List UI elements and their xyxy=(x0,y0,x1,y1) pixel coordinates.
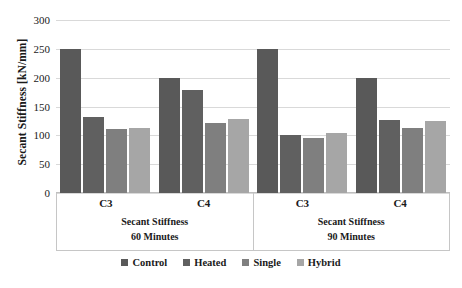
legend-swatch-icon xyxy=(183,259,190,266)
bar-heated xyxy=(182,90,203,193)
bar-group xyxy=(56,20,155,193)
y-axis-tick-label: 150 xyxy=(10,100,50,114)
bar-single xyxy=(402,128,423,193)
category-panel: C3C4Secant Stiffness90 Minutes xyxy=(253,193,450,250)
chart-legend: ControlHeatedSingleHybrid xyxy=(0,257,462,268)
y-axis-tick-label: 100 xyxy=(10,128,50,142)
bar-control xyxy=(159,78,180,193)
legend-item-control[interactable]: Control xyxy=(121,257,167,268)
bar-hybrid xyxy=(326,133,347,193)
category-label: C3 xyxy=(254,197,352,209)
bar-groups xyxy=(56,20,450,193)
legend-label: Control xyxy=(132,257,167,268)
bar-hybrid xyxy=(228,119,249,193)
bar-heated xyxy=(280,135,301,193)
bar-heated xyxy=(379,120,400,193)
legend-label: Hybrid xyxy=(308,257,341,268)
panel-title-line1: Secant Stiffness xyxy=(57,213,253,228)
bar-single xyxy=(303,138,324,193)
y-axis-tick-label: 50 xyxy=(10,157,50,171)
legend-label: Heated xyxy=(194,257,226,268)
bar-control xyxy=(356,78,377,193)
plot-area xyxy=(56,20,450,193)
category-label: C3 xyxy=(57,197,155,209)
bar-group xyxy=(352,20,451,193)
y-axis-tick-label: 200 xyxy=(10,71,50,85)
bar-control xyxy=(257,49,278,193)
category-label: C4 xyxy=(155,197,253,209)
legend-item-heated[interactable]: Heated xyxy=(183,257,226,268)
y-axis-tick-label: 0 xyxy=(10,186,50,200)
category-panel: C3C4Secant Stiffness60 Minutes xyxy=(57,193,253,250)
bar-single xyxy=(106,129,127,193)
legend-label: Single xyxy=(253,257,280,268)
bar-control xyxy=(60,49,81,193)
bar-hybrid xyxy=(425,121,446,193)
bar-group xyxy=(253,20,352,193)
panel-title-line2: 60 Minutes xyxy=(57,228,253,243)
category-label-box: C3C4Secant Stiffness60 MinutesC3C4Secant… xyxy=(56,193,450,251)
bar-chart: Secant Stiffness [kN/mm] 300250200150100… xyxy=(0,0,462,288)
category-label: C4 xyxy=(351,197,449,209)
panel-title-line2: 90 Minutes xyxy=(254,228,450,243)
bar-group xyxy=(155,20,254,193)
bar-single xyxy=(205,123,226,193)
legend-swatch-icon xyxy=(121,259,128,266)
legend-swatch-icon xyxy=(242,259,249,266)
panel-title-line1: Secant Stiffness xyxy=(254,213,450,228)
legend-item-single[interactable]: Single xyxy=(242,257,280,268)
legend-item-hybrid[interactable]: Hybrid xyxy=(297,257,341,268)
y-axis-tick-label: 300 xyxy=(10,13,50,27)
y-axis-tick-label: 250 xyxy=(10,42,50,56)
bar-hybrid xyxy=(129,128,150,193)
bar-heated xyxy=(83,117,104,193)
legend-swatch-icon xyxy=(297,259,304,266)
